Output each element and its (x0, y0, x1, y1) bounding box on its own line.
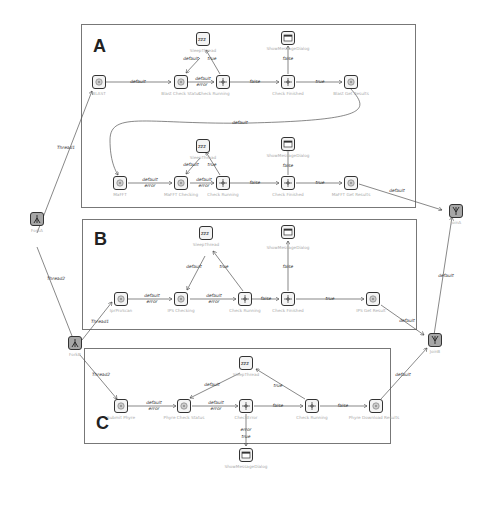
c-check-error-node[interactable] (239, 399, 253, 413)
a2-dialog-label: ShowMessageDialog (267, 153, 310, 158)
edge-label-thread2-top: Thread2 (47, 276, 65, 281)
sleep-icon: zzz (197, 140, 209, 152)
sleep-icon: zzz (197, 33, 209, 45)
a2-sleep-node[interactable]: zzz (196, 139, 210, 153)
edge-label-b-to-join-b: default (399, 318, 414, 323)
edge-label-c-error-2: error (211, 406, 222, 411)
edge-label-a-default-1: default (195, 76, 210, 81)
blast-get-results-node[interactable] (344, 75, 358, 89)
ips-get-result-node[interactable] (366, 292, 380, 306)
gear-icon (367, 293, 379, 305)
edge-label-c-sleep-default: default (204, 382, 219, 387)
iprscan-node[interactable] (114, 292, 128, 306)
mafft-node[interactable] (113, 176, 127, 190)
mafft-get-results-node[interactable] (344, 176, 358, 190)
edge-label-c-default-1: default (146, 400, 161, 405)
blast-node[interactable] (92, 75, 106, 89)
sleep-icon: zzz (200, 227, 212, 239)
b-dialog-label: ShowMessageDialog (267, 245, 310, 250)
edge-label-b-false: false (261, 296, 271, 301)
phyre-download-label: Phyre Download Results (349, 415, 399, 420)
edge-label-b-default-1: default (144, 293, 159, 298)
a2-check-running-node[interactable] (216, 176, 230, 190)
ips-get-result-label: IPS Get Result (356, 308, 385, 313)
decision-icon (217, 177, 229, 189)
mafft-checking-node[interactable] (174, 176, 188, 190)
svg-text:zzz: zzz (241, 360, 249, 366)
a2-sleep-label: SleepThread (190, 155, 216, 160)
edge-label-a2-to-join-a: default (389, 188, 404, 193)
join-icon (429, 334, 441, 346)
c-dialog-node[interactable] (239, 448, 253, 462)
a-dialog-node[interactable] (281, 31, 295, 45)
edge-label-thread1-top: Thread1 (57, 145, 75, 150)
edge-label-join-b-to-join-a: default (438, 273, 453, 278)
a-check-running-node[interactable] (216, 75, 230, 89)
join-b-node[interactable] (428, 333, 442, 347)
ips-checking-node[interactable] (174, 292, 188, 306)
c-check-running-node[interactable] (305, 399, 319, 413)
edge-label-a2-default-1: default (142, 177, 157, 182)
c-check-error-label: CheckError (234, 415, 257, 420)
fork-a-label: ForkA (31, 228, 43, 233)
fork-a-node[interactable] (30, 212, 44, 226)
b-sleep-node[interactable]: zzz (199, 226, 213, 240)
gear-icon (115, 293, 127, 305)
decision-icon (282, 177, 294, 189)
c-sleep-node[interactable]: zzz (239, 356, 253, 370)
blast-label: BLAST (92, 91, 105, 96)
edge-label-thread2-c: Thread2 (92, 372, 110, 377)
decision-icon (240, 400, 252, 412)
a2-dialog-node[interactable] (281, 137, 295, 151)
gear-icon (345, 76, 357, 88)
b-check-finished-label: Check Finished (272, 308, 303, 313)
edge-label-b-sleep-default: default (186, 264, 201, 269)
fork-icon (31, 213, 43, 225)
join-a-node[interactable] (449, 204, 463, 218)
edge-label-a2-sleep-default: default (183, 162, 198, 167)
edge-label-c-sleep-true: true (273, 383, 282, 388)
join-b-label: JoinB (430, 349, 441, 354)
edge-label-c-default-2: default (208, 400, 223, 405)
edge-label-b-default-2: default (206, 293, 221, 298)
gear-icon (175, 293, 187, 305)
edge-label-c-true: true (241, 434, 250, 439)
dialog-icon (240, 449, 252, 461)
decision-icon (282, 293, 294, 305)
b-check-running-node[interactable] (238, 292, 252, 306)
edge-label-a2-true: true (315, 180, 324, 185)
fork-b-node[interactable] (68, 336, 82, 350)
a-check-running-label: Check Running (198, 91, 229, 96)
mafft-get-results-label: MaFFT Get Results (332, 192, 371, 197)
a2-check-running-label: Check Running (207, 192, 238, 197)
b-dialog-node[interactable] (281, 225, 295, 239)
edge-label-a-true: true (315, 79, 324, 84)
gear-icon (370, 400, 382, 412)
decision-icon (239, 293, 251, 305)
edge-label-c-false-2: false (338, 403, 348, 408)
mafft-label: MaFFT (113, 192, 126, 197)
edge-label-a2-error-1: error (145, 183, 156, 188)
submit-phyre-node[interactable] (114, 399, 128, 413)
dialog-icon (282, 138, 294, 150)
a-check-finished-node[interactable] (281, 75, 295, 89)
ips-checking-label: IPS Checking (167, 308, 194, 313)
edge-label-a-loop-default: default (232, 120, 247, 125)
phyre-download-node[interactable] (369, 399, 383, 413)
edge-label-b-sleep-true: true (219, 264, 228, 269)
a-dialog-label: ShowMessageDialog (267, 46, 310, 51)
a-check-finished-label: Check Finished (272, 91, 303, 96)
blast-check-status-node[interactable] (174, 75, 188, 89)
b-check-finished-node[interactable] (281, 292, 295, 306)
b-check-running-label: Check Running (229, 308, 260, 313)
edge-label-a-dialog-false: false (283, 56, 293, 61)
sleep-icon: zzz (240, 357, 252, 369)
edge-label-a2-false: false (250, 180, 260, 185)
a-sleep-node[interactable]: zzz (196, 32, 210, 46)
blast-check-status-label: Blast Check Status (161, 91, 200, 96)
edge-label-c-error: error (241, 427, 252, 432)
phyre-check-status-node[interactable] (177, 399, 191, 413)
submit-phyre-label: Submit Phyre (107, 415, 135, 420)
a2-check-finished-node[interactable] (281, 176, 295, 190)
gear-icon (93, 76, 105, 88)
